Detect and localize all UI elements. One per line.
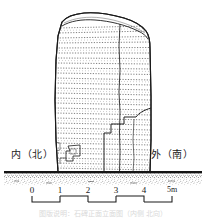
scale-tick-0: 0 bbox=[30, 186, 35, 195]
scale-tick-2: 2 bbox=[86, 186, 91, 195]
direction-label-inside-north: 内（北） bbox=[11, 150, 53, 160]
figure-caption: 图版说明：石碑正面立面图（内侧 北向） bbox=[0, 210, 206, 219]
figure-caption-text: 图版说明：石碑正面立面图（内侧 北向） bbox=[39, 210, 167, 219]
scale-tick-1: 1 bbox=[58, 186, 63, 195]
soil-band-dense bbox=[4, 174, 202, 179]
scale-tick-4: 4 bbox=[142, 186, 147, 195]
ground-line bbox=[4, 171, 202, 174]
ground bbox=[4, 171, 202, 185]
stone-body bbox=[55, 13, 151, 172]
direction-label-outside-south: 外（南） bbox=[151, 150, 193, 160]
scale-tick-3: 3 bbox=[114, 186, 119, 195]
scale-bar-tick-labels: 012345m bbox=[0, 186, 206, 197]
scale-tick-5: 5m bbox=[167, 186, 177, 194]
